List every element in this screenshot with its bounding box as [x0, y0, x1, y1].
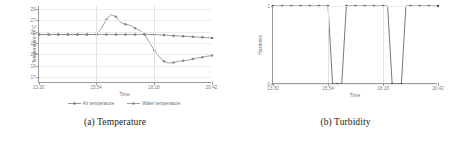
gridline-horizontal: [39, 32, 211, 33]
gridline-horizontal: [39, 43, 211, 44]
x-axis-tick-label: 20:42: [206, 85, 218, 90]
data-point-marker: [162, 60, 165, 63]
turbidity-axes: 0113:3015:5418:1820:42TimeHaziness: [272, 6, 437, 84]
y-axis-tick-label: 17: [30, 75, 35, 80]
y-axis-title: Haziness: [258, 35, 263, 55]
x-axis-tick-label: 13:30: [33, 85, 45, 90]
legend-entry-water-temperature: Water temperature: [127, 101, 180, 106]
gridline-vertical: [154, 6, 155, 82]
y-axis-tick: [36, 77, 39, 78]
data-point-marker: [133, 27, 136, 30]
legend-marker-water-temperature: [127, 101, 140, 106]
data-point-marker: [114, 33, 117, 36]
figure-row: 2927252321191713:3015:5418:1820:42TimeTe…: [0, 0, 461, 149]
data-point-marker: [114, 16, 117, 19]
data-point-marker: [85, 33, 88, 36]
x-axis-tick-label: 18:18: [377, 86, 389, 91]
data-point-marker: [201, 36, 204, 39]
data-point-marker: [210, 37, 213, 40]
subfigure-caption-b: (b) Turbidity: [320, 117, 370, 128]
series-line: [39, 15, 212, 63]
data-point-marker: [201, 56, 204, 59]
x-axis-tick-label: 15:54: [90, 85, 102, 90]
data-point-marker: [172, 61, 175, 64]
y-axis-tick: [36, 9, 39, 10]
data-point-marker: [191, 58, 194, 61]
data-point-marker: [76, 33, 79, 36]
series-line: [273, 6, 438, 84]
turbidity-plot-area: 0113:3015:5418:1820:42TimeHaziness: [238, 0, 453, 116]
data-point-marker: [143, 33, 146, 36]
y-axis-tick-label: 19: [30, 63, 35, 68]
gridline-vertical: [328, 6, 329, 83]
y-axis-tick: [271, 6, 274, 7]
x-axis-tick-label: 20:42: [432, 86, 444, 91]
data-point-marker: [37, 33, 40, 36]
temperature-series-svg: [39, 6, 212, 83]
temperature-plot-area: 2927252321191713:3015:5418:1820:42TimeTe…: [8, 0, 223, 116]
data-point-marker: [181, 60, 184, 63]
data-point-marker: [437, 5, 439, 7]
legend-label-water-temperature: Water temperature: [142, 101, 180, 106]
gridline-horizontal: [273, 6, 437, 7]
x-axis-tick-label: 15:54: [322, 86, 334, 91]
gridline-horizontal: [39, 9, 211, 10]
data-point-marker: [47, 33, 50, 36]
subfigure-turbidity: 0113:3015:5418:1820:42TimeHaziness (b) T…: [230, 0, 461, 149]
temperature-legend: Air temperature Water temperature: [38, 101, 211, 106]
data-point-marker: [66, 33, 69, 36]
gridline-horizontal: [273, 84, 437, 85]
gridline-vertical: [383, 6, 384, 83]
legend-entry-air-temperature: Air temperature: [68, 101, 115, 106]
subfigure-temperature: 2927252321191713:3015:5418:1820:42TimeTe…: [0, 0, 230, 149]
temperature-axes: 2927252321191713:3015:5418:1820:42TimeTe…: [38, 6, 211, 83]
x-axis-tick-label: 13:30: [267, 86, 279, 91]
y-axis-tick-label: 27: [30, 18, 35, 23]
gridline-vertical: [96, 6, 97, 82]
gridline-horizontal: [39, 66, 211, 67]
data-point-marker: [162, 34, 165, 37]
data-point-marker: [56, 33, 59, 36]
y-axis-tick-label: 1: [267, 4, 270, 9]
x-axis-title: Time: [119, 92, 129, 97]
turbidity-series-svg: [273, 6, 438, 84]
data-point-marker: [105, 33, 108, 36]
x-axis-tick-label: 18:18: [148, 85, 160, 90]
gridline-horizontal: [39, 20, 211, 21]
data-point-marker: [133, 33, 136, 36]
y-axis-tick: [36, 66, 39, 67]
data-point-marker: [172, 34, 175, 37]
data-point-marker: [210, 54, 213, 57]
data-point-marker: [124, 33, 127, 36]
data-point-marker: [181, 35, 184, 38]
legend-marker-air-temperature: [68, 101, 81, 106]
legend-label-air-temperature: Air temperature: [83, 101, 115, 106]
subfigure-caption-a: (a) Temperature: [84, 117, 146, 128]
gridline-horizontal: [39, 77, 211, 78]
x-axis-title: Time: [350, 93, 360, 98]
y-axis-tick: [36, 20, 39, 21]
y-axis-tick-label: 29: [30, 6, 35, 11]
data-point-marker: [191, 36, 194, 39]
y-axis-title: Temperature in °C: [31, 25, 36, 64]
data-point-marker: [124, 23, 127, 26]
gridline-horizontal: [39, 54, 211, 55]
